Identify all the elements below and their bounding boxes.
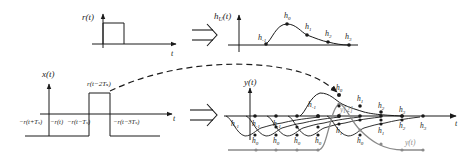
y-label-h1-b: h1 xyxy=(378,126,384,136)
x-below-label-1: −r(t) xyxy=(50,118,63,126)
x-xlabel: t xyxy=(173,114,176,123)
y-top-label-h3: h3 xyxy=(399,105,406,115)
r-pulse xyxy=(103,23,124,44)
panel-y: y(t) t xyxy=(224,77,458,152)
y-label-h0-e: h0 xyxy=(357,136,364,146)
y-top-label-h0: h0 xyxy=(336,83,343,93)
y-label-h0-d: h0 xyxy=(315,136,322,146)
y-label-h1-a: h1 xyxy=(336,126,342,136)
y-inner-label: y[2] xyxy=(339,105,353,114)
h-label-1: h1 xyxy=(305,22,312,32)
panel-x: x(t) t r(t−2Tₛ) −r(t+Tₛ) −r(t) −r(t−Tₛ) … xyxy=(19,69,176,136)
y-top-label-h1: h1 xyxy=(357,94,363,104)
y-top-label-h2: h2 xyxy=(378,101,385,111)
implies-arrow-2 xyxy=(190,104,217,126)
r-xlabel: t xyxy=(171,49,174,58)
y-label-h3-b: h3 xyxy=(420,121,427,131)
implies-arrow-1 xyxy=(192,24,217,46)
h-label-m1: h-1 xyxy=(258,33,266,43)
y-labels: h0 h-1 h1 h2 h3 h-1 h-1 h-1 h0 h0 h0 h0 … xyxy=(231,83,427,146)
x-below-label-0: −r(t+Tₛ) xyxy=(19,118,42,126)
x-pulse-label: r(t−2Tₛ) xyxy=(87,80,111,88)
panel-r: r(t) t xyxy=(82,12,176,58)
y-label-hm1-b: h-1 xyxy=(252,119,260,129)
y-label-hm1-c: h-1 xyxy=(273,119,281,129)
y-label-hm1-a: h-1 xyxy=(231,119,239,129)
y-label-h0-b: h0 xyxy=(273,136,280,146)
y-xlabel: t xyxy=(455,119,458,128)
y-output-label: y(t) xyxy=(404,138,416,147)
x-ylabel: x(t) xyxy=(41,69,55,79)
y-label-h0-c: h0 xyxy=(294,136,301,146)
x-below-label-2: −r(t−Tₛ) xyxy=(67,118,90,126)
y-top-label-hm1: h-1 xyxy=(308,100,316,110)
y-label-h0-a: h0 xyxy=(252,136,259,146)
h-ylabel: hU(t) xyxy=(214,11,231,22)
h-label-2: h2 xyxy=(325,29,332,39)
dashed-connector-arrow xyxy=(110,64,337,92)
diagram-canvas: r(t) t hU(t) h-1 h0 h1 h2 h3 x(t) t r(t−… xyxy=(0,0,474,161)
r-ylabel: r(t) xyxy=(82,12,94,22)
y-ylabel: y(t) xyxy=(243,77,257,87)
y-label-h2-b: h2 xyxy=(399,121,406,131)
h-label-3: h3 xyxy=(345,32,352,42)
panel-h: hU(t) h-1 h0 h1 h2 h3 xyxy=(214,11,358,52)
h-label-0: h0 xyxy=(284,11,291,21)
x-below-label-3: −r(t−3Tₛ) xyxy=(113,118,140,126)
